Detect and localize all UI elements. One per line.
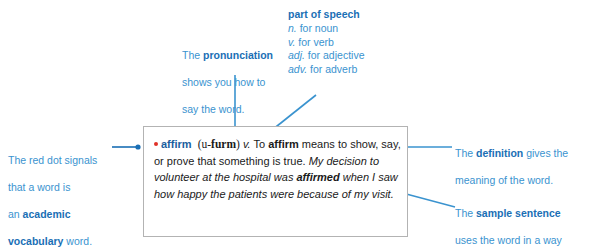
entry-pronunciation-open: (u-: [198, 138, 211, 150]
callout-definition-keyword: definition: [476, 147, 523, 159]
pos-rest-adverb: for adverb: [307, 63, 357, 75]
callout-red-dot-line3: an academic: [8, 208, 128, 222]
callout-pronunciation: The pronunciation shows you how to say t…: [182, 35, 292, 130]
pos-rest-noun: for noun: [297, 22, 338, 34]
callout-definition-line2: meaning of the word.: [455, 174, 590, 188]
pos-rest-verb: for verb: [295, 36, 334, 48]
pos-rest-adjective: for adjective: [305, 49, 365, 61]
entry-sample-keyword: affirmed: [296, 171, 339, 183]
pos-item-verb: v. for verb: [288, 36, 364, 50]
entry-definition-pre: To: [251, 138, 269, 150]
entry-headword: affirm: [161, 138, 192, 150]
pos-item-adjective: adj. for adjective: [288, 49, 364, 63]
callout-part-of-speech-heading: part of speech: [288, 8, 360, 22]
callout-pronunciation-keyword: pronunciation: [203, 49, 273, 61]
callout-sample-sentence-keyword: sample sentence: [476, 207, 561, 219]
dictionary-entry-box: affirm (u-furm) v. To affirm means to sh…: [143, 126, 408, 237]
entry-pronunciation-stress: furm: [211, 138, 236, 150]
callout-red-dot-line2: that a word is: [8, 181, 128, 195]
dictionary-entry-text: affirm (u-furm) v. To affirm means to sh…: [154, 136, 402, 202]
academic-vocabulary-red-dot: [154, 142, 158, 146]
entry-part-of-speech: v.: [243, 138, 251, 150]
callout-pronunciation-line3: say the word.: [182, 103, 292, 117]
callout-pronunciation-line1: The pronunciation: [182, 49, 292, 63]
pos-abbr-noun: n.: [288, 22, 297, 34]
entry-definition-keyword: affirm: [268, 138, 299, 150]
callout-part-of-speech-list: n. for noun v. for verb adj. for adjecti…: [288, 22, 364, 76]
callout-definition-line1-pre: The: [455, 147, 476, 159]
callout-definition-line1: The definition gives the: [455, 147, 590, 161]
callout-definition: The definition gives the meaning of the …: [455, 133, 590, 201]
callout-red-dot-line1: The red dot signals: [8, 154, 128, 168]
connector-dot-red-dot-callout: [135, 144, 140, 149]
callout-pronunciation-line1-pre: The: [182, 49, 203, 61]
callout-red-dot-keyword-academic: academic: [23, 208, 71, 220]
callout-sample-sentence-line2: uses the word in a way: [455, 234, 593, 248]
entry-pronunciation-close: ): [236, 138, 240, 150]
callout-red-dot: The red dot signals that a word is an ac…: [8, 140, 128, 248]
entry-pronunciation: (u-furm): [198, 138, 240, 150]
callout-sample-sentence: The sample sentence uses the word in a w…: [455, 193, 593, 248]
callout-red-dot-keyword-vocabulary: vocabulary: [8, 235, 63, 247]
callout-red-dot-line4: vocabulary word.: [8, 235, 128, 248]
callout-red-dot-line3-pre: an: [8, 208, 23, 220]
callout-red-dot-line4-post: word.: [63, 235, 92, 247]
callout-sample-sentence-line1-pre: The: [455, 207, 476, 219]
callout-definition-line1-post: gives the: [523, 147, 568, 159]
pos-item-adverb: adv. for adverb: [288, 63, 364, 77]
callout-pronunciation-line2: shows you how to: [182, 76, 292, 90]
pos-item-noun: n. for noun: [288, 22, 364, 36]
callout-sample-sentence-line1: The sample sentence: [455, 207, 593, 221]
